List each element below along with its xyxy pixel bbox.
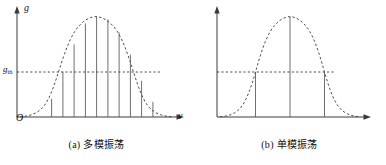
- mode-lines-multimode: [52, 16, 153, 117]
- panel-multimode: g v O gth (a) 多模振荡: [0, 0, 193, 165]
- threshold-label-main-multimode: g: [3, 64, 8, 74]
- y-axis-multimode: [14, 6, 19, 117]
- x-axis-singlemode: [217, 114, 371, 119]
- x-axis-multimode: [17, 114, 184, 119]
- caption-singlemode: (b) 单模振荡: [193, 136, 386, 151]
- gain-curve-multimode: [20, 17, 172, 117]
- caption-multimode: (a) 多模振荡: [0, 136, 193, 151]
- x-axis-label-multimode: v: [178, 110, 182, 121]
- threshold-label-multimode: gth: [3, 64, 13, 74]
- y-axis-label-multimode: g: [24, 2, 29, 13]
- origin-label-multimode: O: [16, 112, 23, 123]
- mode-lines-singlemode: [256, 17, 325, 117]
- panel-singlemode: g v O gth (b) 单模振荡: [193, 0, 386, 165]
- figure-container: g v O gth (a) 多模振荡: [0, 0, 386, 165]
- y-axis-singlemode: [214, 6, 219, 117]
- threshold-label-sub-multimode: th: [8, 68, 13, 75]
